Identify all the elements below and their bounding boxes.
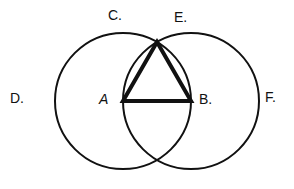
label-e: E. [174,10,187,24]
label-b: B. [199,92,212,106]
geometry-diagram [0,0,294,189]
label-f: F. [265,90,276,104]
label-a: A [99,92,108,106]
equilateral-triangle-abc [123,42,191,101]
label-d: D. [10,91,24,105]
label-c: C. [108,8,122,22]
